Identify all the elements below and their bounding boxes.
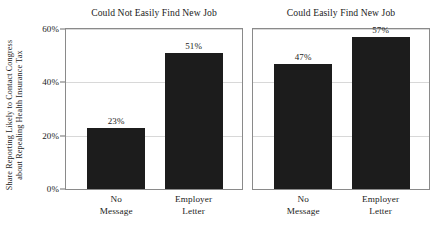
bar-value-label: 51% xyxy=(185,41,202,51)
panel-could-easily-find-new-job: Could Easily Find New Job 47%NoMessage57… xyxy=(252,28,430,190)
panel-could-not-easily-find-new-job: Could Not Easily Find New Job 23%NoMessa… xyxy=(65,28,243,190)
x-axis-tick-label-line: Employer xyxy=(362,194,399,206)
panel-left-title: Could Not Easily Find New Job xyxy=(66,7,242,18)
y-axis-tick-label: 20% xyxy=(42,131,59,141)
y-axis-title: Share Reporting Likely to Contact Congre… xyxy=(0,0,30,230)
y-axis-title-line-1: Share Reporting Likely to Contact Congre… xyxy=(5,40,15,190)
x-axis-tick-label-line: Letter xyxy=(362,206,399,218)
gridline xyxy=(253,29,429,30)
bar-value-label: 23% xyxy=(108,116,125,126)
y-axis-title-line-2: about Repealing Health Insurance Tax xyxy=(15,40,25,190)
x-axis-tick-label: EmployerLetter xyxy=(175,194,212,217)
x-axis-tick-label-line: No xyxy=(287,194,320,206)
bar xyxy=(165,53,223,189)
y-axis-tick-label: 0% xyxy=(47,184,59,194)
x-axis-tick-label: NoMessage xyxy=(100,194,133,217)
x-axis-tick-label: EmployerLetter xyxy=(362,194,399,217)
bar xyxy=(87,128,145,189)
gridline xyxy=(66,29,242,30)
x-axis-tick-label-line: Message xyxy=(287,206,320,218)
bar xyxy=(352,37,410,189)
x-axis-tick-label: NoMessage xyxy=(287,194,320,217)
x-axis-tick-label-line: No xyxy=(100,194,133,206)
x-axis-tick-label-line: Employer xyxy=(175,194,212,206)
bar xyxy=(274,64,332,189)
bar-value-label: 47% xyxy=(295,52,312,62)
x-axis-tick-label-line: Message xyxy=(100,206,133,218)
plot-area-left: 23%NoMessage51%EmployerLetter xyxy=(66,29,242,189)
y-axis-tick-label: 40% xyxy=(42,77,59,87)
y-axis-ticks: 0%20%40%60% xyxy=(30,28,65,190)
chart-figure: Share Reporting Likely to Contact Congre… xyxy=(0,0,436,230)
y-axis-tick-label: 60% xyxy=(42,24,59,34)
plot-area-right: 47%NoMessage57%EmployerLetter xyxy=(253,29,429,189)
bar-value-label: 57% xyxy=(372,25,389,35)
panel-right-title: Could Easily Find New Job xyxy=(253,7,429,18)
x-axis-tick-label-line: Letter xyxy=(175,206,212,218)
